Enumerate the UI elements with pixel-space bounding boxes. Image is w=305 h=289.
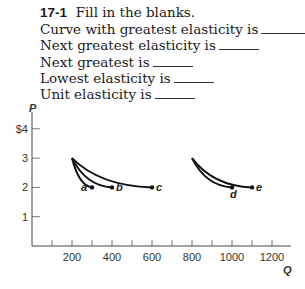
x-tick-label: 200 [63, 251, 81, 263]
curve-label-e: e [256, 181, 262, 193]
x-tick-label: 1200 [260, 251, 284, 263]
elasticity-chart: PQ20040060080010001200123$4abcde [0, 0, 305, 289]
x-tick-label: 600 [143, 251, 161, 263]
curve-endpoint-b [110, 185, 114, 189]
y-tick-label: 2 [22, 181, 28, 193]
x-axis-label: Q [283, 264, 292, 276]
y-tick-label: $4 [16, 123, 28, 135]
x-tick-label: 800 [183, 251, 201, 263]
curve-label-a: a [81, 181, 87, 193]
y-tick-label: 3 [22, 152, 28, 164]
y-tick-label: 1 [22, 211, 28, 223]
x-tick-label: 1000 [220, 251, 244, 263]
curve-endpoint-a [90, 185, 94, 189]
x-tick-label: 400 [103, 251, 121, 263]
curve-label-d: d [230, 188, 237, 200]
y-axis-label: P [29, 102, 37, 114]
curve-endpoint-c [150, 185, 154, 189]
curve-endpoint-e [250, 185, 254, 189]
curve-label-c: c [156, 181, 162, 193]
